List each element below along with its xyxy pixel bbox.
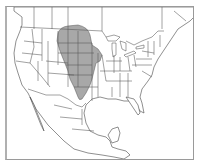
landmass [14,7,194,159]
lake-michigan [112,43,116,57]
north-america-map [7,7,194,160]
map-frame [5,6,194,160]
